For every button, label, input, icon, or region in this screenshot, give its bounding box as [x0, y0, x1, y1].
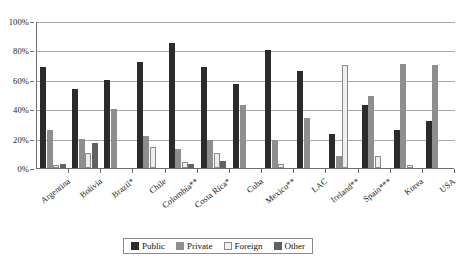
bar-private: [432, 65, 438, 168]
x-axis-tick-mark: [261, 169, 262, 173]
bar-private: [207, 140, 213, 168]
y-axis-tick-mark: [30, 140, 34, 141]
bar-other: [92, 143, 98, 168]
bar-private: [175, 149, 181, 168]
x-axis-tick-mark: [165, 169, 166, 173]
plot-area: [36, 22, 454, 169]
x-axis-tick-mark: [325, 169, 326, 173]
plot-area-wrapper: [36, 22, 454, 169]
x-axis-category-label: Bolivia: [77, 176, 103, 200]
x-axis-category-label: Ireland**: [329, 176, 362, 204]
legend-label: Other: [285, 241, 306, 251]
bar-private: [240, 105, 246, 168]
legend-item-foreign[interactable]: Foreign: [224, 241, 263, 251]
legend-swatch-private-icon: [176, 242, 184, 250]
x-axis-category-label: LAC: [309, 176, 329, 195]
y-axis: 0%20%40%60%80%100%: [0, 22, 34, 169]
bar-group: [40, 21, 66, 168]
y-axis-tick-label: 60%: [13, 76, 29, 86]
x-axis-tick-mark: [68, 169, 69, 173]
y-axis-tick-mark: [30, 81, 34, 82]
legend-swatch-other-icon: [274, 242, 282, 250]
bar-public: [362, 105, 368, 168]
bar-group: [426, 21, 452, 168]
bar-foreign: [85, 153, 91, 168]
bar-public: [72, 89, 78, 168]
bar-private: [47, 130, 53, 168]
bar-private: [336, 156, 342, 168]
bar-private: [111, 109, 117, 168]
bar-group: [104, 21, 130, 168]
y-axis-tick-label: 80%: [13, 46, 29, 56]
legend-label: Private: [187, 241, 213, 251]
bar-foreign: [182, 162, 188, 168]
bar-foreign: [278, 164, 284, 168]
bar-other: [60, 164, 66, 168]
y-axis-tick-label: 100%: [9, 17, 29, 27]
y-axis-tick-mark: [30, 51, 34, 52]
bar-private: [304, 118, 310, 168]
bar-public: [297, 71, 303, 168]
bar-private: [143, 136, 149, 168]
bar-public: [137, 62, 143, 168]
bar-group: [201, 21, 227, 168]
x-axis-tick-mark: [197, 169, 198, 173]
legend-item-private[interactable]: Private: [176, 241, 213, 251]
x-axis-tick-mark: [390, 169, 391, 173]
bar-public: [394, 130, 400, 168]
legend-label: Public: [142, 241, 165, 251]
x-axis-tick-mark: [358, 169, 359, 173]
bar-public: [329, 134, 335, 168]
bar-foreign: [407, 165, 413, 168]
bar-public: [201, 67, 207, 168]
bar-group: [329, 21, 355, 168]
bar-private: [368, 96, 374, 168]
legend-swatch-public-icon: [131, 242, 139, 250]
bar-public: [169, 43, 175, 168]
x-axis-tick-mark: [422, 169, 423, 173]
bar-group: [394, 21, 420, 168]
bar-group: [72, 21, 98, 168]
legend-item-other[interactable]: Other: [274, 241, 306, 251]
x-axis-category-label: USA: [438, 176, 458, 195]
x-axis-category-label: Mexico**: [263, 176, 297, 206]
x-axis-tick-mark: [454, 169, 455, 173]
bar-public: [104, 80, 110, 168]
bar-public: [40, 67, 46, 168]
x-axis-tick-mark: [293, 169, 294, 173]
x-axis-category-label: Spain***: [361, 176, 393, 204]
legend-item-public[interactable]: Public: [131, 241, 165, 251]
y-axis-tick-label: 40%: [13, 105, 29, 115]
y-axis-tick-mark: [30, 22, 34, 23]
legend-label: Foreign: [235, 241, 263, 251]
bar-foreign: [150, 147, 156, 168]
bar-public: [233, 84, 239, 168]
y-axis-tick-mark: [30, 110, 34, 111]
bar-group: [169, 21, 195, 168]
bar-group: [297, 21, 323, 168]
x-axis-tick-mark: [229, 169, 230, 173]
x-axis-category-label: Costa Rica*: [193, 176, 233, 210]
x-axis-tick-mark: [100, 169, 101, 173]
bar-foreign: [375, 156, 381, 168]
x-axis-category-label: Argentina: [38, 176, 72, 205]
x-axis-category-label: Korea: [403, 176, 426, 197]
x-axis-tick-mark: [132, 169, 133, 173]
y-axis-tick-label: 20%: [13, 135, 29, 145]
x-axis-category-label: Chile: [147, 176, 168, 196]
bar-private: [400, 64, 406, 168]
chart-legend: PublicPrivateForeignOther: [123, 238, 313, 254]
y-axis-tick-label: 0%: [17, 164, 29, 174]
bar-private: [272, 140, 278, 168]
bar-group: [362, 21, 388, 168]
bar-foreign: [53, 165, 59, 168]
bar-group: [265, 21, 291, 168]
bar-group: [137, 21, 163, 168]
bar-foreign: [214, 153, 220, 168]
bar-chart: 0%20%40%60%80%100% ArgentinaBoliviaBrazi…: [0, 0, 462, 268]
x-axis-category-label: Brazil*: [110, 176, 136, 200]
bar-public: [265, 50, 271, 168]
y-axis-tick-mark: [30, 169, 34, 170]
bar-public: [426, 121, 432, 168]
bar-foreign: [342, 65, 348, 168]
